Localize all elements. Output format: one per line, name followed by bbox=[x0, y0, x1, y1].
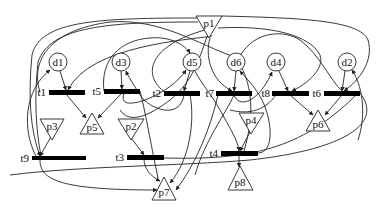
place-p3-label: p3 bbox=[47, 120, 59, 132]
place-p3[interactable]: p3 bbox=[40, 119, 64, 140]
transition-t1-label: t1 bbox=[37, 86, 46, 98]
place-p1-label: p1 bbox=[204, 17, 215, 29]
place-d1-label: d1 bbox=[53, 56, 64, 68]
arc-d1-t1 bbox=[60, 71, 66, 90]
place-p8[interactable]: p8 bbox=[228, 166, 253, 190]
arc-t6-t9 bbox=[10, 93, 367, 175]
transition-t9-label: t9 bbox=[20, 152, 29, 164]
place-d2[interactable]: d2 bbox=[338, 53, 356, 71]
place-p6-label: p6 bbox=[313, 118, 325, 130]
arc-d2-up bbox=[352, 70, 363, 140]
arc-d6-p1-line bbox=[120, 34, 208, 117]
arc-d6-t7 bbox=[234, 71, 236, 91]
arc-t9-p7 bbox=[40, 160, 157, 190]
arc-d6-loop-d2 bbox=[240, 34, 342, 91]
transition-t5[interactable]: t5 bbox=[92, 85, 140, 97]
arc-p1-t9 bbox=[30, 18, 200, 156]
arc-d3-t5 bbox=[121, 71, 122, 89]
place-p5[interactable]: p5 bbox=[80, 113, 104, 134]
transition-t4-label: t4 bbox=[209, 147, 218, 159]
place-d3-label: d3 bbox=[116, 56, 128, 68]
place-d6-label: d6 bbox=[231, 56, 243, 68]
transition-t6[interactable]: t6 bbox=[312, 87, 360, 99]
transition-t4[interactable]: t4 bbox=[209, 147, 258, 159]
transition-t5-label: t5 bbox=[92, 85, 101, 97]
transition-t7-label: t7 bbox=[205, 87, 214, 99]
place-d3[interactable]: d3 bbox=[112, 53, 130, 71]
place-d4[interactable]: d4 bbox=[267, 53, 285, 71]
arc-t6-p6 bbox=[325, 95, 342, 115]
transition-t3-label: t3 bbox=[115, 151, 124, 163]
arc-t5-p5 bbox=[98, 93, 122, 118]
arc-t8-p6 bbox=[290, 95, 313, 115]
arc-t1-p5 bbox=[66, 94, 86, 118]
arc-t2-p7 bbox=[170, 95, 192, 183]
arc-t1-d6 bbox=[38, 22, 232, 92]
place-p7-label: p7 bbox=[159, 186, 171, 198]
place-d6[interactable]: d6 bbox=[227, 53, 245, 71]
transition-t8-label: t8 bbox=[261, 87, 270, 99]
place-d2-label: d2 bbox=[342, 56, 353, 68]
arcs bbox=[10, 16, 369, 190]
petri-net-diagram: d1 d3 d5 d6 d4 d2 p1 p3 p2 p4 p5 bbox=[0, 0, 380, 204]
arc-d4-t8 bbox=[279, 71, 288, 91]
place-p5-label: p5 bbox=[87, 121, 99, 133]
place-p8-label: p8 bbox=[235, 176, 247, 188]
arc-p3-t9 bbox=[40, 135, 52, 156]
place-p4[interactable]: p4 bbox=[239, 113, 264, 134]
place-d5-label: d5 bbox=[187, 56, 199, 68]
place-d4-label: d4 bbox=[271, 56, 283, 68]
transition-t3[interactable]: t3 bbox=[115, 151, 164, 163]
place-p2-label: p2 bbox=[126, 120, 137, 132]
transition-t8[interactable]: t8 bbox=[261, 87, 309, 99]
place-p2[interactable]: p2 bbox=[118, 119, 144, 140]
transition-t2-label: t2 bbox=[152, 87, 161, 99]
arc-t7-p7 bbox=[176, 95, 218, 190]
place-d1[interactable]: d1 bbox=[49, 53, 67, 71]
arc-p4-t4 bbox=[240, 130, 251, 151]
transition-t9[interactable]: t9 bbox=[20, 152, 86, 164]
transition-t1[interactable]: t1 bbox=[37, 86, 85, 98]
place-p4-label: p4 bbox=[246, 114, 258, 126]
arc-d5-t2 bbox=[184, 71, 190, 91]
arc-d2-t6 bbox=[342, 71, 345, 91]
transition-t6-label: t6 bbox=[312, 87, 321, 99]
place-d5[interactable]: d5 bbox=[183, 53, 201, 71]
transition-t2[interactable]: t2 bbox=[152, 87, 200, 99]
place-p1[interactable]: p1 bbox=[196, 16, 222, 38]
